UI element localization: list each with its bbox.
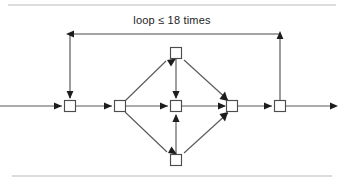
node-bottom[interactable] <box>171 155 182 166</box>
arrowhead-into-join-from-center <box>218 102 226 109</box>
node-join[interactable] <box>227 101 238 112</box>
arrowhead-into-center-from-bottom <box>172 114 179 122</box>
figure-root: loop ≤ 18 times <box>0 0 344 184</box>
node-entry[interactable] <box>65 101 76 112</box>
edge-bottom-to-join <box>184 113 228 153</box>
edge-split-to-bottom <box>125 112 167 152</box>
node-top[interactable] <box>171 48 182 59</box>
arrowhead-into-split <box>104 102 112 109</box>
arrowhead-into-exit <box>264 102 272 109</box>
loop-label: loop ≤ 18 times <box>0 14 344 27</box>
arrowhead-loopback-up <box>277 31 284 39</box>
node-center[interactable] <box>171 101 182 112</box>
arrowhead-sink-terminal <box>330 102 338 109</box>
edge-split-to-top <box>125 61 166 101</box>
edge-top-to-join <box>184 60 228 100</box>
arrowhead-into-center-from-left <box>160 102 168 109</box>
arrowhead-into-top-node <box>167 59 176 67</box>
flow-diagram <box>0 0 344 184</box>
node-split[interactable] <box>115 101 126 112</box>
node-exit[interactable] <box>275 101 286 112</box>
arrowhead-into-center-from-top <box>172 91 179 99</box>
arrowhead-into-entry-horizontal <box>54 102 62 109</box>
arrowhead-loopback-into-entry <box>67 91 74 99</box>
